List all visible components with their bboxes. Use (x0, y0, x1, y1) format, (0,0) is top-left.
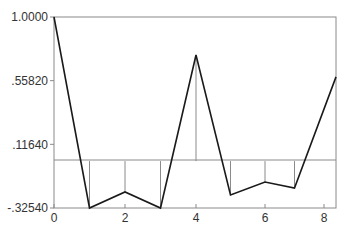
data-line (54, 17, 336, 208)
x-tick-label: 2 (115, 212, 135, 224)
y-ticks (50, 17, 54, 208)
x-tick-label: 4 (186, 212, 206, 224)
y-tick-label: .11640 (2, 139, 48, 151)
x-tick-label: 0 (44, 212, 64, 224)
x-tick-label: 6 (255, 212, 275, 224)
x-tick-label: 8 (314, 212, 334, 224)
plot-area (0, 0, 351, 233)
y-tick-label: 1.0000 (2, 11, 48, 23)
y-tick-label: .55820 (2, 75, 48, 87)
axes-frame (54, 17, 336, 208)
y-tick-label: -.32540 (2, 202, 48, 214)
stems (90, 55, 295, 208)
